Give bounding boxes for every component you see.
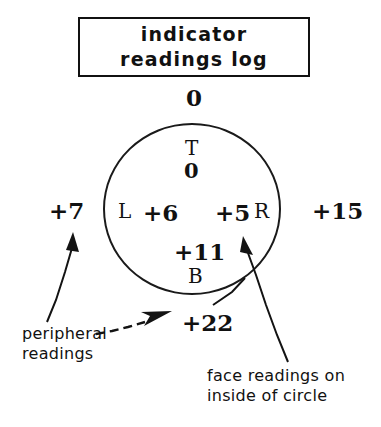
arrowhead-peripheral-bottom xyxy=(141,311,172,326)
title-line-1: indicator xyxy=(141,22,248,47)
annotation-face-line-2: inside of circle xyxy=(207,386,345,406)
face-letter-right: R xyxy=(254,201,269,221)
face-letter-top: T xyxy=(185,138,198,158)
annotation-peripheral-readings: peripheral readings xyxy=(22,324,107,364)
arrowhead-peripheral-left xyxy=(66,232,79,252)
annotation-peripheral-line-1: peripheral xyxy=(22,324,107,344)
face-letter-bottom: B xyxy=(188,266,203,286)
leader-line-peripheral-left xyxy=(47,248,72,322)
peripheral-reading-bottom: +22 xyxy=(182,311,233,334)
peripheral-reading-right: +15 xyxy=(312,199,363,222)
annotation-peripheral-line-2: readings xyxy=(22,344,107,364)
annotation-face-line-1: face readings on xyxy=(207,366,345,386)
peripheral-reading-left: +7 xyxy=(49,199,84,222)
peripheral-reading-top: 0 xyxy=(186,86,202,109)
title-line-2: readings log xyxy=(120,47,268,72)
face-reading-top: 0 xyxy=(184,160,199,181)
title-box: indicator readings log xyxy=(78,17,310,77)
face-reading-bottom: +11 xyxy=(174,240,225,263)
face-letter-left: L xyxy=(118,201,131,221)
face-reading-right: +5 xyxy=(215,201,250,224)
face-reading-left: +6 xyxy=(143,201,178,224)
annotation-face-readings: face readings on inside of circle xyxy=(207,366,345,406)
diagram-canvas: indicator readings log 0 +7 +15 +22 T 0 … xyxy=(0,0,381,427)
